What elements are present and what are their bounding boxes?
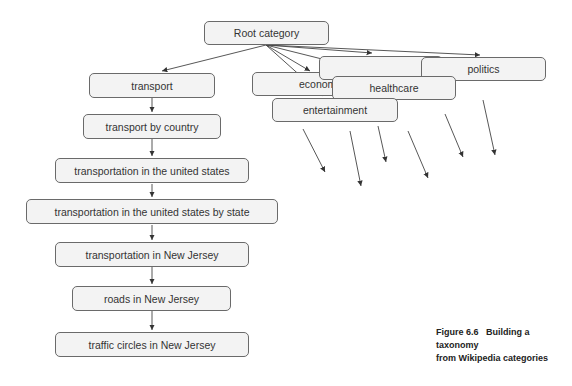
figure-number: Figure 6.6 (436, 327, 479, 337)
figure-caption: Figure 6.6 Building a taxonomy from Wiki… (436, 326, 572, 365)
node-entertainment: entertainment (272, 98, 398, 122)
node-transportation-new-jersey: transportation in New Jersey (55, 242, 249, 267)
node-transport: transport (89, 73, 215, 98)
node-transportation-us-by-state: transportation in the united states by s… (26, 199, 278, 224)
node-root-category: Root category (204, 21, 329, 45)
node-traffic-circles-new-jersey: traffic circles in New Jersey (55, 332, 249, 357)
node-healthcare: healthcare (332, 76, 456, 100)
caption-line-2: from Wikipedia categories (436, 352, 572, 365)
node-transportation-in-united-states: transportation in the united states (55, 158, 249, 183)
node-transport-by-country: transport by country (83, 114, 221, 139)
node-roads-new-jersey: roads in New Jersey (72, 286, 231, 311)
